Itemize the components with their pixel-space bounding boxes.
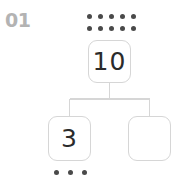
- number-bond-worksheet-item: 01 10 3: [0, 0, 195, 193]
- dot: [98, 26, 103, 31]
- whole-number-box[interactable]: 10: [88, 40, 131, 83]
- dot: [87, 26, 92, 31]
- dot: [68, 170, 73, 175]
- dot: [120, 14, 125, 19]
- dot: [98, 14, 103, 19]
- problem-number-label: 01: [5, 11, 30, 30]
- dot: [54, 170, 59, 175]
- dot: [109, 14, 114, 19]
- part-number-box-right[interactable]: [128, 116, 171, 161]
- part-number-value-left: 3: [61, 126, 78, 151]
- dot: [120, 26, 125, 31]
- dot: [82, 170, 87, 175]
- whole-dot-array: [82, 10, 140, 34]
- part-number-box-left[interactable]: 3: [48, 116, 91, 161]
- dot: [87, 14, 92, 19]
- part-dot-array-left: [49, 166, 91, 178]
- dot: [131, 14, 136, 19]
- dot: [109, 26, 114, 31]
- dot: [131, 26, 136, 31]
- whole-number-value: 10: [93, 49, 127, 74]
